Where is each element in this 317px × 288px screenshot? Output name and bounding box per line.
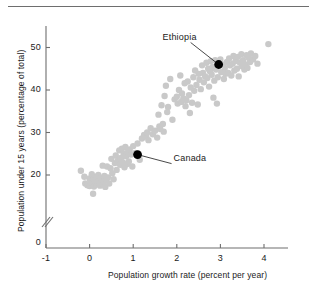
x-tick-label: -1 [32,253,60,263]
data-point [134,140,140,146]
annotation-label-canada: Canada [174,153,207,163]
data-point [110,176,116,182]
y-origin-label: 0 [24,237,41,247]
data-point [252,53,258,59]
data-point [174,94,180,100]
data-point [185,78,191,84]
data-point [187,110,193,116]
data-point [190,74,196,80]
x-axis-label: Population growth rate (percent per year… [108,270,267,280]
highlighted-data-point [133,150,142,159]
data-point [177,72,183,78]
data-point [129,163,135,169]
data-point [145,137,151,143]
data-point [160,121,166,127]
y-tick-label: 20 [24,169,41,179]
data-point [155,111,161,117]
data-point [195,101,201,107]
data-point [254,60,260,66]
y-tick-label: 50 [24,42,41,52]
data-point [206,83,212,89]
data-point [158,102,164,108]
data-point [161,128,167,134]
plot-canvas [0,0,317,288]
data-point [186,92,192,98]
y-axis-label: Population under 15 years (percentage of… [16,50,26,232]
data-point [208,72,214,78]
x-tick-label: 1 [119,253,147,263]
data-point [236,73,242,79]
y-tick-label: 40 [24,84,41,94]
data-point [189,100,195,106]
data-point [265,41,271,47]
data-point [154,134,160,140]
data-point [167,76,173,82]
data-point [182,103,188,109]
highlighted-data-point [214,60,223,69]
annotation-label-ethiopia: Ethiopia [151,32,197,42]
x-tick-label: 0 [76,253,104,263]
data-point [244,65,250,71]
data-point [210,94,216,100]
x-tick-label: 3 [206,253,234,263]
data-point [165,104,171,110]
data-point [78,168,84,174]
scatter-plot-figure: Population under 15 years (percentage of… [0,0,317,288]
data-point [163,83,169,89]
x-tick-label: 2 [163,253,191,263]
data-point [161,93,167,99]
data-point [191,88,197,94]
data-point [198,86,204,92]
data-point [214,100,220,106]
data-point [90,191,96,197]
y-tick-label: 30 [24,127,41,137]
x-tick-label: 4 [250,253,278,263]
data-point [169,117,175,123]
